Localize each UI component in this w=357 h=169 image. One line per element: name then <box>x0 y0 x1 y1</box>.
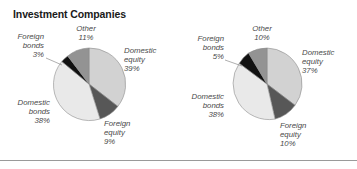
label-percent: 39% <box>124 64 178 73</box>
label-percent: 11% <box>62 33 110 42</box>
label-line2: equity <box>302 57 323 66</box>
label-line1: Domestic <box>18 98 51 107</box>
label-percent: 9% <box>104 137 160 146</box>
label-other-left: Other 11% <box>62 24 110 42</box>
label-foreign-equity-left: Foreign equity 9% <box>104 119 160 147</box>
label-line1: Domestic <box>302 48 335 57</box>
label-other-right: Other 10% <box>238 24 286 42</box>
label-foreign-bonds-right: Foreign bonds 5% <box>172 34 224 62</box>
pie-slices-right <box>233 48 302 120</box>
label-percent: 3% <box>0 50 44 59</box>
label-line2: bonds <box>203 101 224 110</box>
label-line1: Domestic <box>192 92 225 101</box>
label-line2: equity <box>124 55 145 64</box>
label-foreign-equity-right: Foreign equity 10% <box>280 121 336 149</box>
label-percent: 10% <box>238 33 286 42</box>
label-line1: Foreign <box>198 34 224 43</box>
leader-lines-left <box>46 58 62 65</box>
pie-chart-left: Foreign bonds 3% Other 11% Domestic equi… <box>0 22 178 162</box>
page-title: Investment Companies <box>13 8 126 20</box>
label-line1: Domestic <box>124 46 157 55</box>
label-foreign-bonds-left: Foreign bonds 3% <box>0 32 44 60</box>
label-line2: bonds <box>203 43 224 52</box>
label-line2: bonds <box>29 107 50 116</box>
label-line2: equity <box>280 130 301 139</box>
label-domestic-bonds-right: Domestic bonds 38% <box>166 92 224 120</box>
label-percent: 38% <box>166 110 224 119</box>
pie-slices-left <box>53 48 125 121</box>
label-line1: Foreign <box>18 32 44 41</box>
label-domestic-bonds-left: Domestic bonds 38% <box>0 98 50 126</box>
label-percent: 5% <box>172 52 224 61</box>
label-line1: Foreign <box>280 121 306 130</box>
label-line1: Other <box>252 24 272 33</box>
leader-foreign-bonds <box>46 58 62 65</box>
label-percent: 38% <box>0 116 50 125</box>
chart-figure: Investment Companies Foreign bonds 3% Ot… <box>0 0 357 169</box>
pie-chart-right: Foreign bonds 5% Other 10% Domestic equi… <box>178 22 356 162</box>
label-percent: 10% <box>280 139 336 148</box>
label-percent: 37% <box>302 66 356 75</box>
label-line2: bonds <box>23 41 44 50</box>
bottom-divider <box>0 160 357 161</box>
label-domestic-equity-right: Domestic equity 37% <box>302 48 356 76</box>
label-domestic-equity-left: Domestic equity 39% <box>124 46 178 74</box>
label-line2: equity <box>104 128 125 137</box>
label-line1: Other <box>76 24 96 33</box>
label-line1: Foreign <box>104 119 130 128</box>
